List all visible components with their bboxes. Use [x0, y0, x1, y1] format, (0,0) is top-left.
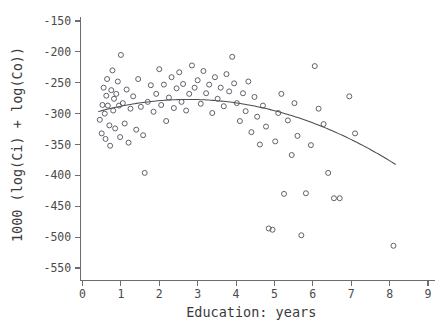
scatter-point — [246, 79, 251, 84]
scatter-point — [255, 114, 260, 119]
scatter-point — [126, 140, 131, 145]
scatter-point — [237, 119, 242, 124]
scatter-point — [285, 118, 290, 123]
scatter-point — [230, 54, 235, 59]
scatter-point — [289, 153, 294, 158]
y-axis-tick-label: -550 — [43, 261, 71, 275]
scatter-point — [279, 91, 284, 96]
scatter-point — [204, 91, 209, 96]
plot-canvas: -150-200-250-300-350-400-450-500-5500123… — [0, 0, 447, 333]
scatter-point — [391, 243, 396, 248]
x-axis-title: Education: years — [186, 304, 316, 320]
scatter-point — [97, 117, 102, 122]
scatter-point — [198, 101, 203, 106]
scatter-point — [331, 196, 336, 201]
scatter-point — [192, 85, 197, 90]
scatter-point — [249, 130, 254, 135]
scatter-point — [105, 77, 110, 82]
scatter-point — [295, 133, 300, 138]
scatter-point — [212, 75, 217, 80]
scatter-point — [113, 126, 118, 131]
scatter-point — [118, 52, 123, 57]
scatter-point — [128, 106, 133, 111]
scatter-point — [174, 86, 179, 91]
scatter-point — [131, 94, 136, 99]
scatter-point — [240, 91, 245, 96]
scatter-point — [312, 64, 317, 69]
scatter-point — [107, 123, 112, 128]
scatter-point — [154, 91, 159, 96]
y-axis-tick-label: -450 — [43, 199, 71, 213]
scatter-point — [221, 104, 226, 109]
scatter-point — [181, 81, 186, 86]
scatter-point — [142, 170, 147, 175]
x-axis-tick-label: 4 — [233, 287, 240, 301]
scatter-point — [232, 81, 237, 86]
y-axis-tick-label: -200 — [43, 45, 71, 59]
scatter-point — [207, 82, 212, 87]
y-axis-tick-label: -400 — [43, 168, 71, 182]
scatter-point — [136, 77, 141, 82]
scatter-point — [252, 94, 257, 99]
scatter-point — [134, 127, 139, 132]
scatter-point — [169, 75, 174, 80]
scatter-point — [105, 103, 110, 108]
scatter-point — [109, 88, 114, 93]
scatter-point — [100, 102, 105, 107]
scatter-point — [101, 85, 106, 90]
scatter-point — [201, 69, 206, 74]
scatter-point — [187, 91, 192, 96]
scatter-point — [179, 99, 184, 104]
x-axis-tick-label: 5 — [271, 287, 278, 301]
scatter-point — [257, 142, 262, 147]
scatter-point — [102, 111, 107, 116]
scatter-point — [104, 93, 109, 98]
scatter-point — [337, 196, 342, 201]
scatter-point — [303, 191, 308, 196]
scatter-point — [189, 63, 194, 68]
x-axis-tick-label: 7 — [348, 287, 355, 301]
scatter-point — [157, 67, 162, 72]
y-axis-tick-label: -350 — [43, 138, 71, 152]
scatter-point — [166, 95, 171, 100]
y-axis-tick-label: -300 — [43, 107, 71, 121]
scatter-point — [122, 121, 127, 126]
scatter-point — [111, 108, 116, 113]
scatter-point — [114, 91, 119, 96]
scatter-point — [316, 106, 321, 111]
scatter-point — [273, 139, 278, 144]
x-axis-tick-label: 6 — [309, 287, 316, 301]
axis-labels-layer: -150-200-250-300-350-400-450-500-5500123… — [9, 14, 432, 320]
scatter-point — [151, 109, 156, 114]
scatter-point — [99, 131, 104, 136]
scatter-point — [164, 119, 169, 124]
scatter-point — [159, 102, 164, 107]
scatter-point — [227, 89, 232, 94]
scatter-point — [110, 68, 115, 73]
scatter-point — [264, 124, 269, 129]
y-axis-tick-label: -250 — [43, 76, 71, 90]
x-axis-tick-label: 1 — [117, 287, 124, 301]
scatter-point — [326, 170, 331, 175]
y-axis-tick-label: -150 — [43, 14, 71, 28]
scatter-point — [210, 111, 215, 116]
scatter-point — [195, 78, 200, 83]
scatter-point — [218, 85, 223, 90]
scatter-point — [177, 70, 182, 75]
scatter-point — [243, 109, 248, 114]
scatter-point — [108, 143, 113, 148]
scatter-point — [118, 135, 123, 140]
scatter-point — [115, 79, 120, 84]
x-axis-tick-label: 0 — [79, 287, 86, 301]
scatter-point — [124, 87, 129, 92]
scatter-point — [141, 133, 146, 138]
scatter-point — [353, 131, 358, 136]
scatter-point — [184, 108, 189, 113]
x-axis-tick-label: 9 — [425, 287, 432, 301]
scatter-point — [148, 83, 153, 88]
scatter-point — [111, 96, 116, 101]
axes-layer — [75, 17, 435, 286]
scatter-plot-figure: -150-200-250-300-350-400-450-500-5500123… — [0, 0, 447, 333]
scatter-point — [171, 106, 176, 111]
y-axis-tick-label: -500 — [43, 230, 71, 244]
